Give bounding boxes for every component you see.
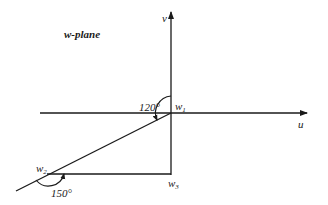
- point-label-w3: w3: [168, 177, 179, 191]
- u-axis-label: u: [298, 118, 304, 130]
- point-label-w2: w2: [36, 162, 47, 176]
- point-label-w1: w1: [175, 100, 186, 114]
- w-plane-diagram: w-plane u v 120° w1 150° w2 w3: [0, 0, 328, 205]
- v-axis-label: v: [162, 12, 167, 24]
- angle-arc-w2: [36, 174, 64, 186]
- segment-w1-w2: [16, 113, 171, 191]
- plane-title: w-plane: [64, 28, 100, 40]
- angle-label-w2: 150°: [51, 187, 73, 199]
- angle-label-w1: 120°: [139, 101, 161, 113]
